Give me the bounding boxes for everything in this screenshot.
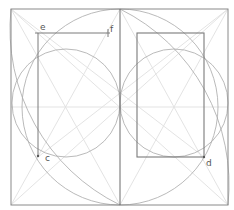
label-c: c xyxy=(45,153,50,163)
point-d xyxy=(203,156,205,158)
label-d: d xyxy=(206,158,212,168)
right-rectangle xyxy=(137,33,204,157)
label-e: e xyxy=(40,22,46,32)
guide-c-to-corner xyxy=(38,9,228,157)
point-c xyxy=(37,155,39,157)
label-f: f xyxy=(110,24,114,34)
geometry-diagram: e f c d xyxy=(0,0,234,210)
left-construction xyxy=(35,29,110,157)
